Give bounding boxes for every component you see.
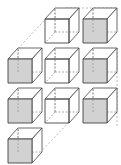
diagram-svg (0, 0, 121, 165)
cube-front-face-shaded (83, 99, 107, 123)
cube-grid-diagram (0, 0, 121, 165)
cube-front-face-shaded (83, 19, 107, 43)
cube-front-face-shaded (8, 139, 32, 163)
cube-front-face (45, 99, 69, 123)
cubes-group (8, 8, 117, 163)
cube-r1c3 (83, 8, 117, 43)
cube-front-face-shaded (8, 59, 32, 83)
cube-r1c2 (45, 8, 79, 43)
cube-r2c1 (8, 48, 42, 83)
cube-r4c1 (8, 128, 42, 163)
cube-front-face-shaded (8, 99, 32, 123)
cube-r2c2 (45, 48, 79, 83)
cube-front-face-shaded (83, 59, 107, 83)
cube-front-face (45, 19, 69, 43)
cube-r3c1 (8, 88, 42, 123)
cube-r3c3 (83, 88, 117, 123)
cube-r2c3 (83, 48, 117, 83)
cube-r3c2 (45, 88, 79, 123)
cube-front-face (45, 59, 69, 83)
